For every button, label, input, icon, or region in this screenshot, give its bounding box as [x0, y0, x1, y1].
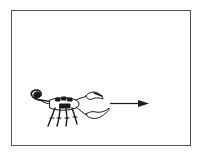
- scene: [0, 0, 201, 154]
- scorpion-icon: [31, 90, 109, 126]
- direction-arrow-icon: [110, 100, 149, 107]
